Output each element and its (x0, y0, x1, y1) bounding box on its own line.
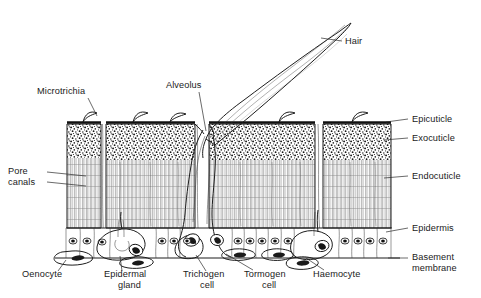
label-alveolus: Alveolus (166, 80, 202, 90)
label-exocuticle: Exocuticle (412, 133, 455, 143)
label-endocuticle: Endocuticle (412, 171, 461, 181)
label-epidermis: Epidermis (412, 223, 454, 233)
microtrichia-group (83, 112, 368, 122)
label-trichogen-cell-line1: Trichogen (183, 269, 224, 279)
label-pore-canals-line2: canals (8, 177, 35, 187)
label-tormogen-cell-line1: Tormogen (244, 269, 286, 279)
label-oenocyte: Oenocyte (22, 269, 62, 279)
label-epidermal-gland-line1: Epidermal (104, 269, 146, 279)
label-haemocyte: Haemocyte (313, 269, 360, 279)
integument-diagram: Microtrichia Alveolus Hair Epicuticle Ex… (0, 0, 481, 298)
cuticle-block (323, 123, 391, 229)
label-basement-membrane-line1: Basement (412, 252, 455, 262)
label-epidermal-gland-line2: gland (118, 280, 141, 290)
epidermis-layer (55, 228, 400, 258)
cuticle-layer-group (67, 123, 391, 229)
label-tormogen-cell-line2: cell (262, 280, 276, 290)
cuticle-block (67, 123, 101, 229)
label-basement-membrane-line2: membrane (412, 263, 457, 273)
label-pore-canals-line1: Pore (8, 166, 28, 176)
diagram-canvas: Microtrichia Alveolus Hair Epicuticle Ex… (0, 0, 481, 298)
label-hair: Hair (345, 36, 362, 46)
label-microtrichia: Microtrichia (37, 86, 86, 96)
label-trichogen-cell-line2: cell (200, 280, 214, 290)
label-epicuticle: Epicuticle (412, 114, 452, 124)
cuticle-block (209, 123, 315, 229)
